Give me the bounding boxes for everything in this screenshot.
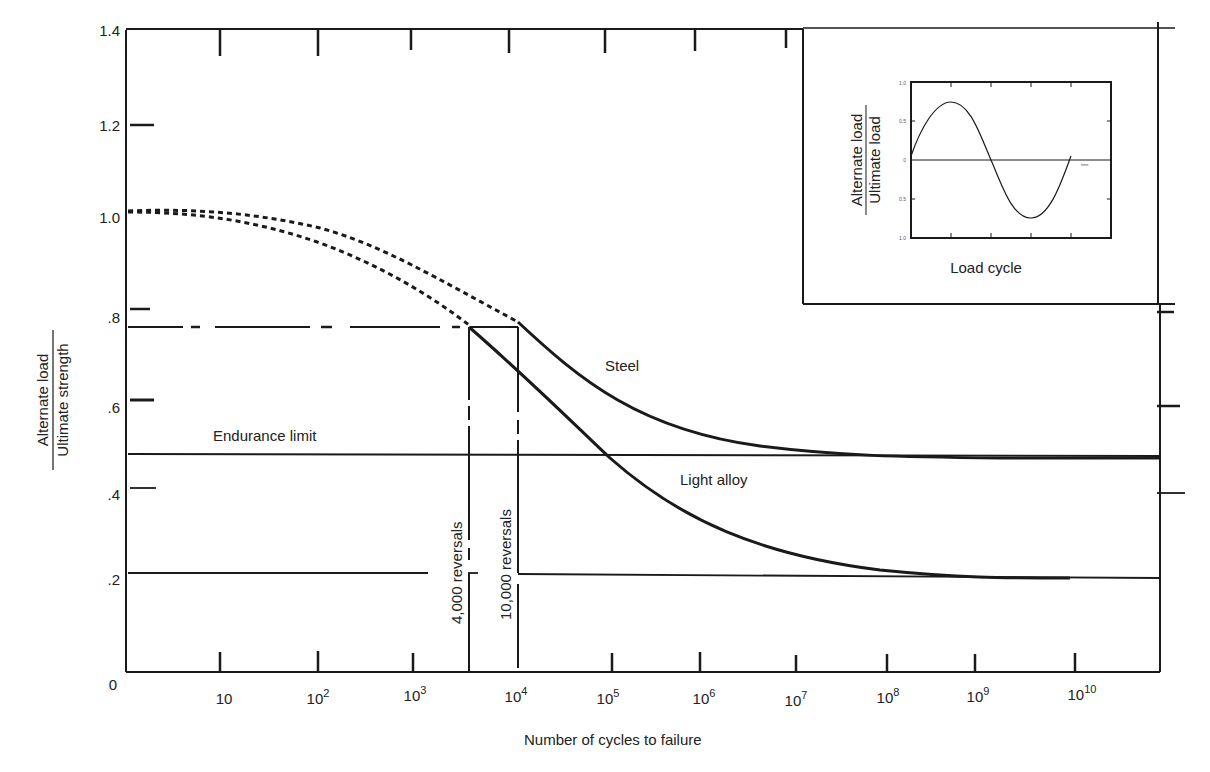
svg-text:1010: 1010: [1068, 683, 1097, 703]
steel-curve: [518, 322, 1160, 458]
svg-text:.2: .2: [107, 571, 120, 588]
left-ticks: [130, 125, 156, 488]
svg-text:1.0: 1.0: [99, 209, 120, 226]
svg-text:0: 0: [109, 676, 117, 693]
light-alloy-curve: [469, 327, 1070, 578]
y-axis-label: Alternate load Ultimate strength: [34, 330, 71, 470]
svg-text:10: 10: [216, 690, 233, 707]
svg-text:Alternate load: Alternate load: [34, 354, 51, 447]
top-ticks: [220, 30, 786, 56]
svg-text:102: 102: [307, 687, 330, 707]
inset-chart: 1.0 0.5 0 0.5 1.0 time Load cycle Altern…: [848, 80, 1111, 276]
inset-y-label: Alternate load Ultimate load: [848, 105, 883, 215]
svg-text:.4: .4: [107, 486, 120, 503]
reference-lines: [128, 327, 1160, 578]
reversals-4000-label: 4,000 reversals: [448, 521, 465, 624]
svg-text:Ultimate strength: Ultimate strength: [54, 343, 71, 456]
svg-text:Ultimate load: Ultimate load: [866, 116, 883, 204]
svg-text:.6: .6: [107, 399, 120, 416]
svg-text:107: 107: [785, 689, 808, 709]
svg-text:106: 106: [693, 687, 716, 707]
fatigue-chart: 1.4 1.2 1.0 .8 .6 .4 .2 0 10 102 103 104…: [0, 0, 1210, 772]
right-ticks: [1157, 312, 1185, 493]
inset-x-label: Load cycle: [950, 259, 1022, 276]
svg-text:Alternate load: Alternate load: [848, 114, 865, 207]
svg-text:104: 104: [505, 685, 528, 705]
x-tick-labels: 10 102 103 104 105 106 107 108 109 1010: [216, 683, 1097, 709]
dotted-extrapolation: [128, 210, 518, 325]
svg-text:109: 109: [967, 685, 990, 705]
bottom-ticks: [220, 651, 1075, 672]
svg-text:103: 103: [404, 684, 427, 704]
svg-text:1.2: 1.2: [99, 117, 120, 134]
svg-text:0.5: 0.5: [899, 196, 906, 202]
x-axis-label: Number of cycles to failure: [524, 731, 702, 748]
light-alloy-label: Light alloy: [680, 471, 748, 488]
reversals-10000-label: 10,000 reversals: [497, 509, 514, 620]
y-tick-labels: 1.4 1.2 1.0 .8 .6 .4 .2 0: [99, 22, 120, 693]
svg-text:105: 105: [597, 687, 620, 707]
svg-text:1.0: 1.0: [899, 235, 906, 241]
svg-text:time: time: [1081, 162, 1089, 167]
svg-text:0.5: 0.5: [899, 118, 906, 124]
steel-label: Steel: [605, 357, 639, 374]
endurance-limit-label: Endurance limit: [213, 427, 317, 444]
svg-text:1.0: 1.0: [899, 80, 906, 86]
svg-text:1.4: 1.4: [99, 22, 120, 39]
svg-text:.8: .8: [107, 309, 120, 326]
svg-text:108: 108: [877, 686, 900, 706]
svg-text:0: 0: [903, 157, 906, 163]
